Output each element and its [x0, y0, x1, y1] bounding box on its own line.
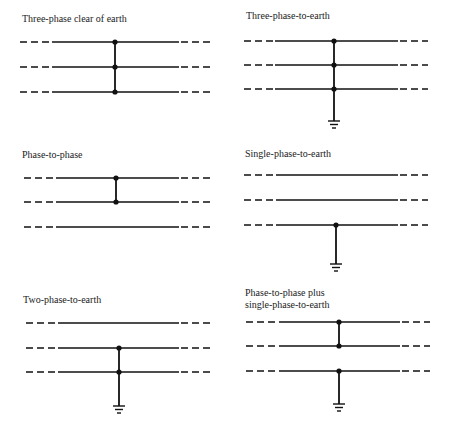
fault-junction-dot	[331, 38, 336, 43]
panel-label: Three-phase clear of earth	[22, 13, 127, 24]
earth-ground-icon	[333, 404, 345, 411]
fault-junction-dot	[336, 343, 341, 348]
panel-label: Phase-to-phase	[22, 149, 83, 160]
fault-junction-dot	[333, 222, 338, 227]
panel-label: single-phase-to-earth	[245, 299, 329, 310]
fault-junction-dot	[112, 64, 117, 69]
panel-label: Three-phase-to-earth	[246, 10, 330, 21]
panel-phase-to-phase: Phase-to-phase	[22, 149, 211, 227]
fault-junction-dot	[112, 39, 117, 44]
panel-label: Two-phase-to-earth	[23, 294, 101, 305]
panel-single-phase-to-earth: Single-phase-to-earth	[244, 148, 428, 271]
panel-three-phase-clear-of-earth: Three-phase clear of earth	[20, 13, 211, 95]
fault-types-diagram: Three-phase clear of earthThree-phase-to…	[0, 0, 449, 432]
earth-ground-icon	[328, 121, 340, 128]
panel-two-phase-to-earth: Two-phase-to-earth	[23, 294, 212, 413]
fault-junction-dot	[331, 62, 336, 67]
panel-phase-to-phase-plus-single-phase-to-earth: Phase-to-phase plussingle-phase-to-earth	[245, 287, 430, 411]
fault-junction-dot	[336, 368, 341, 373]
fault-junction-dot	[336, 319, 341, 324]
fault-junction-dot	[116, 369, 121, 374]
fault-junction-dot	[331, 86, 336, 91]
panel-three-phase-to-earth: Three-phase-to-earth	[244, 10, 428, 128]
fault-junction-dot	[116, 345, 121, 350]
panel-label: Phase-to-phase plus	[245, 287, 325, 298]
fault-junction-dot	[113, 199, 118, 204]
earth-ground-icon	[113, 406, 125, 413]
fault-junction-dot	[113, 175, 118, 180]
panel-label: Single-phase-to-earth	[245, 148, 331, 159]
earth-ground-icon	[330, 264, 342, 271]
fault-junction-dot	[112, 89, 117, 94]
